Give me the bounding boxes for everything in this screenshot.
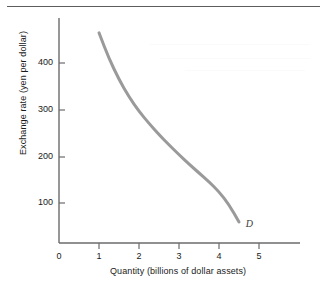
x-tick-label-4: 4 [212, 251, 226, 261]
x-tick-label-3: 3 [172, 251, 186, 261]
demand-curve [99, 33, 239, 222]
y-tick-label-100: 100 [27, 197, 53, 207]
x-tick-label-0: 0 [52, 251, 66, 261]
x-tick-label-2: 2 [132, 251, 146, 261]
x-axis-title: Quantity (billions of dollar assets) [110, 266, 246, 276]
x-tick-label-1: 1 [92, 251, 106, 261]
y-tick-label-200: 200 [27, 151, 53, 161]
y-axis-title: Exchange rate (yen per dollar) [18, 8, 28, 178]
plot-area [0, 0, 327, 287]
y-tick-label-400: 400 [27, 57, 53, 67]
demand-curve-figure: 400 300 200 100 0 1 2 3 4 5 D Exchange r… [0, 0, 327, 287]
x-tick-label-5: 5 [252, 251, 266, 261]
demand-curve-label: D [246, 218, 253, 229]
y-tick-label-300: 300 [27, 104, 53, 114]
